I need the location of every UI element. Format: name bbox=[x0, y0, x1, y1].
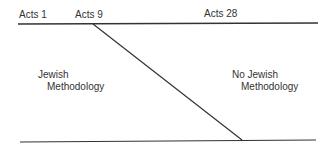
transition-diagonal bbox=[93, 24, 242, 140]
right-region-line2: Methodology bbox=[241, 81, 298, 92]
bottom-timeline bbox=[20, 140, 316, 142]
label-acts-9: Acts 9 bbox=[75, 9, 103, 20]
right-region-line1: No Jewish bbox=[232, 69, 278, 80]
top-timeline bbox=[18, 23, 318, 24]
left-region-line1: Jewish bbox=[38, 69, 69, 80]
left-region-line2: Methodology bbox=[47, 81, 104, 92]
label-acts-28: Acts 28 bbox=[204, 8, 237, 19]
label-acts-1: Acts 1 bbox=[19, 9, 47, 20]
